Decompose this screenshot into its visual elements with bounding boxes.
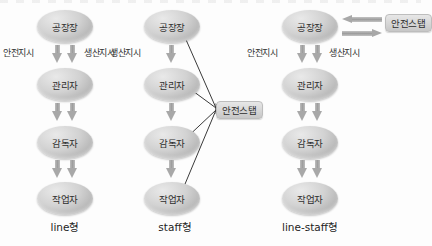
arrow-down-icon (52, 103, 63, 121)
staff-box-safety-staff-col3[interactable]: 안전스탭 (385, 14, 432, 32)
arrow-down-icon (297, 45, 308, 63)
arrow-down-icon (166, 160, 177, 178)
arrow-right-icon (342, 29, 382, 38)
arrow-down-icon (67, 103, 78, 121)
arrow-down-icon (297, 103, 308, 121)
node-worker-line[interactable]: 작업자 (37, 182, 93, 215)
staff-box-safety-staff-col2[interactable]: 안전스탭 (216, 101, 263, 119)
arrow-down-icon (312, 103, 323, 121)
arrow-down-icon (67, 160, 78, 178)
node-worker-line-staff[interactable]: 작업자 (282, 182, 338, 215)
node-supervisor-line[interactable]: 감독자 (37, 126, 93, 159)
caption-staff: staff형 (125, 219, 225, 234)
arrow-down-icon (312, 160, 323, 178)
top-cut-off-text-remnant (0, 0, 421, 3)
arrow-down-icon (52, 45, 63, 63)
arrow-down-icon (297, 160, 308, 178)
label-safety-order-line-staff: 안전지시 (247, 46, 277, 59)
arrow-down-icon (166, 103, 177, 121)
arrow-down-icon (52, 160, 63, 178)
label-production-order-line-staff: 생산지시 (329, 46, 359, 59)
node-supervisor-staff[interactable]: 감독자 (144, 126, 200, 159)
node-plant-manager-line[interactable]: 공장장 (37, 10, 93, 43)
node-manager-line[interactable]: 관리자 (37, 68, 93, 101)
arrow-down-icon (67, 45, 78, 63)
arrow-down-icon (312, 45, 323, 63)
label-production-order-staff: 생산지시 (110, 46, 140, 59)
node-plant-manager-line-staff[interactable]: 공장장 (282, 10, 338, 43)
caption-line: line형 (15, 219, 115, 234)
node-supervisor-line-staff[interactable]: 감독자 (282, 126, 338, 159)
node-manager-staff[interactable]: 관리자 (144, 68, 200, 101)
arrow-down-icon (166, 45, 177, 63)
node-worker-staff[interactable]: 작업자 (144, 182, 200, 215)
arrow-left-icon (342, 15, 382, 24)
caption-line-staff: line-staff형 (260, 219, 360, 234)
node-plant-manager-staff[interactable]: 공장장 (144, 10, 200, 43)
node-manager-line-staff[interactable]: 관리자 (282, 68, 338, 101)
label-safety-order-line: 안전지시 (3, 46, 33, 59)
